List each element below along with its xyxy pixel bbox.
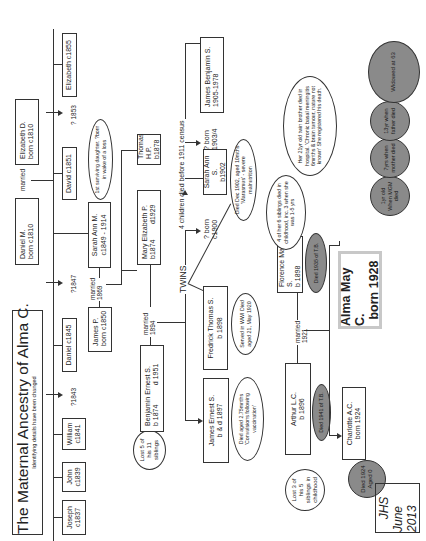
person-name: David c1851 [65, 154, 73, 193]
person-name: Charlotte A.C. [346, 402, 354, 446]
twin-connector [188, 204, 231, 284]
unknown-child-1903: ? born 1903/4 [203, 129, 219, 150]
connector-line [297, 293, 298, 320]
unknown-child-1847: ?1847 [70, 275, 77, 293]
person-sarah-ann-m: Sarah Ann M. c1849 - 1914 [88, 202, 111, 268]
person-name: Mary Elizabeth P. [141, 205, 149, 259]
person-alma-may-c: Alma May C. born 1928 [338, 251, 382, 329]
marriage-label-gen1: married [19, 169, 26, 191]
connector-line [53, 477, 62, 478]
connector-line [339, 241, 340, 246]
note-florence-siblings: 4 of her 6 siblings died in childhood, i… [266, 175, 306, 250]
person-dates: 1905-1978 [212, 74, 220, 107]
born-year: b1874 [149, 240, 156, 259]
person-name: Elizabeth D. [19, 121, 27, 159]
person-dates: born c1850 [100, 311, 108, 346]
sibling-spine-gen4 [329, 246, 330, 436]
connector-line [150, 337, 151, 345]
person-name: John [66, 469, 74, 484]
connector-line [157, 322, 185, 323]
person-name: Joseph [66, 506, 74, 529]
person-arthur-lc: Arthur L.C. b 1896 [285, 363, 311, 455]
died-year: d 1951 [152, 364, 159, 385]
signature-date: June 2013 [391, 484, 419, 532]
connector-line [150, 265, 151, 307]
person-name: Sarah Ann M. [91, 214, 99, 256]
person-name: William [66, 423, 74, 446]
note-benjamin-siblings: Lost 5 of his 11 siblings [133, 430, 166, 470]
title-box: The Maternal Ancestry of Alma C. Identif… [12, 310, 43, 535]
connector-line [185, 43, 200, 44]
person-name: James P. [92, 318, 100, 346]
family-tree-canvas: The Maternal Ancestry of Alma C. Identif… [0, 0, 426, 541]
connector-line [121, 270, 137, 271]
born-year: b 1874 [152, 405, 159, 426]
person-james-benjamin-s: James Benjamin S. 1905-1978 [200, 37, 224, 113]
person-name: James Benjamin S. [204, 47, 212, 107]
sibling-spine-gen3 [185, 43, 186, 421]
marriage-word: married [89, 278, 96, 300]
connector-line [297, 345, 298, 363]
arrow-child [329, 435, 340, 436]
connector-line [304, 330, 329, 331]
person-william: William c1841 [62, 418, 86, 450]
arrow-unknown-child [185, 230, 199, 231]
unknown-child-c1900: ? born c1900 [203, 219, 219, 239]
page-subtitle: Identifying details have been changed [31, 311, 38, 534]
marriage-word: married [142, 313, 149, 335]
person-name: Benjamin Ernest S. [144, 366, 152, 426]
arrow-child [185, 420, 201, 421]
marriage-label-1869: married 1869 [89, 278, 103, 300]
signature-box: JHS June 2013 [375, 483, 420, 533]
person-name: Elizabeth c1855 [65, 40, 73, 90]
person-dates: b 1898 [294, 266, 302, 287]
connector-line [53, 345, 62, 346]
unknown-dates: 1903/4 [211, 129, 218, 150]
person-mary-elizabeth-p: Mary Elizabeth P. b1874 d1929 [137, 190, 161, 265]
person-dates: b 1874 d 1951 [152, 364, 160, 426]
connector-line [53, 517, 62, 518]
sibling-spine-gen1 [53, 29, 54, 541]
milestone-7yrs: 7yrs when mother died [370, 138, 410, 178]
children-died-label: 4 children died before 1911 census [178, 119, 186, 231]
person-name: Arthur L.C. [290, 392, 298, 426]
person-dates: c1849 - 1914 [100, 215, 108, 256]
person-name: Alma May C. [339, 254, 367, 326]
person-benjamin-ernest-s: Benjamin Ernest S. b 1874 d 1951 [140, 345, 164, 432]
person-daniel-m: Daniel M. born c1810 [15, 198, 39, 265]
person-dates: born c1810 [27, 224, 35, 259]
arrow-unknown-child [46, 112, 61, 113]
milestone-widowed: Widowed at 63 [368, 41, 420, 103]
person-dates: born 1924 [354, 408, 362, 440]
note-florence-death: Died 1935 of T.B. [305, 233, 327, 293]
arrow-unknown-child [46, 394, 61, 395]
unknown-label: ? born [203, 219, 210, 239]
note-fredrick: Served in WWI Died aged 21, May 1920 [231, 293, 260, 355]
note-james-ernest: Died aged 2.75mnths 'Convulsions followi… [231, 377, 264, 461]
connector-line [185, 178, 203, 179]
arrow-unknown-child [46, 282, 61, 283]
marriage-label-1921: married 1921 [294, 321, 308, 343]
arrow-unknown-child [185, 142, 199, 143]
unknown-label: ? born [203, 130, 210, 150]
person-daniel-c1845: Daniel c1845 [62, 318, 77, 372]
marriage-year: 1869 [96, 286, 103, 300]
marriage-label-1894: married 1894 [142, 313, 156, 335]
person-dates: c1839 [74, 467, 82, 486]
person-dates: b 1896 [298, 398, 306, 419]
person-dates: c1841 [74, 424, 82, 443]
marriage-word: married [294, 321, 301, 343]
person-name: Sarah Ann S. [203, 152, 219, 192]
person-dates: b & d 1897 [216, 404, 224, 438]
connector-line [53, 233, 88, 234]
connector-line [53, 434, 62, 435]
connector-line [31, 180, 53, 181]
person-name: Daniel M. [19, 229, 27, 259]
connector-line [99, 301, 100, 307]
person-dates: c1837 [74, 508, 82, 527]
person-david: David c1851 [62, 147, 77, 200]
person-name: Thomas H.P. [137, 134, 153, 159]
person-name: Fredrick Thomas S. [207, 298, 215, 359]
signature-initials: JHS [377, 497, 391, 520]
page-title: The Maternal Ancestry of Alma C. [15, 311, 31, 534]
